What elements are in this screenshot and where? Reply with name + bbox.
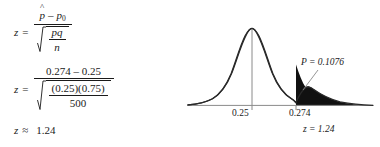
- fraction-pq-numeric: (0.25)(0.75) 500: [49, 81, 108, 110]
- equation-z-numeric: z = 0.274 – 0.25 (0.25)(0.75) 50: [14, 64, 114, 113]
- normal-curve-outline: [188, 28, 296, 104]
- equals-sign-numeric: =: [22, 83, 33, 95]
- fraction-denominator-numeric: (0.25)(0.75) 500: [34, 79, 114, 113]
- radicand-numerator-pq: pq: [49, 25, 66, 39]
- radical-numeric: (0.25)(0.75) 500: [37, 80, 111, 110]
- hat-accent-icon: ^: [40, 3, 44, 12]
- formula-block: z = ^ p –p0 pq: [0, 0, 185, 147]
- p-hat-symbol: ^ p: [39, 9, 45, 21]
- fraction-pq-over-n: pq n: [49, 25, 66, 54]
- radical-general: pq n: [37, 26, 69, 52]
- minus-sign-general: –: [45, 9, 57, 21]
- radicand-denominator-numeric: 500: [67, 96, 90, 110]
- fraction-numeric: 0.274 – 0.25 (0.25)(0.75) 500: [34, 64, 114, 113]
- radical-sign-icon: [37, 26, 46, 52]
- equation-lhs-z-numeric: z: [14, 83, 22, 95]
- fraction-denominator-general: pq n: [34, 25, 72, 55]
- equals-sign: =: [22, 26, 33, 38]
- normal-curve-path: [188, 28, 373, 105]
- fraction-numerator-general: ^ p –p0: [36, 8, 68, 24]
- fraction-general: ^ p –p0 pq n: [34, 8, 72, 55]
- equation-lhs-z-result: z: [14, 124, 22, 136]
- equation-lhs-z: z: [14, 26, 22, 38]
- axis-label-cutoff: 0.274: [289, 108, 310, 118]
- annotation-p-value: P = 0.1076: [301, 57, 344, 67]
- radicand-numerator-numeric: (0.25)(0.75): [49, 81, 108, 95]
- axis-label-mean: 0.25: [232, 108, 249, 118]
- radicand-denominator-n: n: [51, 40, 63, 54]
- equation-z-general: z = ^ p –p0 pq: [14, 8, 72, 55]
- annotation-z-value: z = 1.24: [303, 124, 334, 134]
- p-null-subscript: 0: [62, 14, 66, 23]
- radicand-numeric: (0.25)(0.75) 500: [46, 80, 111, 110]
- radical-sign-icon-numeric: [37, 80, 46, 110]
- normal-curve-figure: 0.25 0.274 z = 1.24 P = 0.1076: [185, 0, 380, 147]
- equation-z-result: z ≈ 1.24: [14, 124, 56, 136]
- z-result-value: 1.24: [28, 124, 55, 136]
- radicand-general: pq n: [46, 26, 69, 52]
- fraction-numerator-numeric: 0.274 – 0.25: [43, 64, 104, 78]
